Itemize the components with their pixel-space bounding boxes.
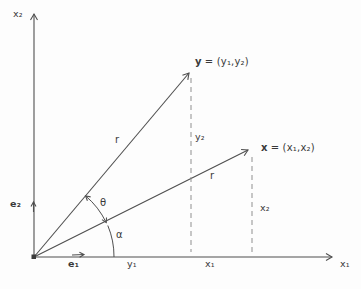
e2-basis-label: e₂ (10, 199, 21, 209)
alpha-angle-label: α (116, 230, 123, 240)
vector-y-definition: = (y₁,y₂) (205, 57, 249, 67)
vector-x-name: x (261, 143, 268, 153)
y-axis-label: x₂ (13, 9, 23, 19)
vector-x-definition: = (x₁,x₂) (271, 143, 315, 153)
vector-y-label: y = (y₁,y₂) (195, 57, 249, 67)
origin-point (32, 255, 37, 260)
vector-x-magnitude-label: r (210, 171, 214, 181)
vector-y-name: y (195, 57, 202, 67)
e1-basis-label: e₁ (68, 259, 79, 269)
y2-coordinate-label: y₂ (195, 132, 205, 142)
y1-coordinate-label: y₁ (127, 259, 137, 269)
vector-diagram: x₂ x₁ y = (y₁,y₂) x = (x₁,x₂) r r θ α e₂… (0, 0, 361, 289)
theta-angle-label: θ (100, 198, 106, 208)
x1-coordinate-label: x₁ (205, 259, 215, 269)
vector-y-magnitude-label: r (115, 135, 119, 145)
vector-x-label: x = (x₁,x₂) (261, 143, 315, 153)
x-axis-label: x₁ (340, 259, 350, 269)
e1-unit-arrow (72, 255, 84, 256)
alpha-angle-arc (108, 226, 114, 258)
x2-coordinate-label: x₂ (260, 203, 270, 213)
vector-x-arrow (34, 150, 248, 257)
vector-y-arrow (34, 73, 189, 257)
